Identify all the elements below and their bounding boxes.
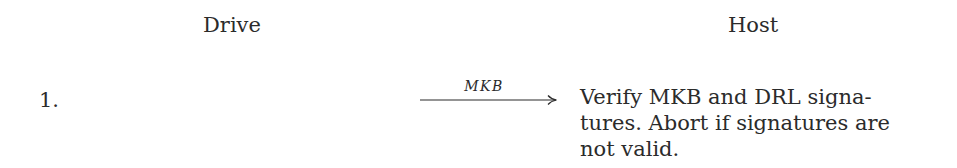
message-label: MKB [420,78,548,94]
message-arrow-group: MKB [420,78,558,108]
drive-column-header: Drive [203,12,261,38]
right-arrow-icon [420,94,558,106]
host-column-header: Host [728,12,778,38]
host-action-line: tures. Abort if signatures are [580,110,920,136]
step-number: 1. [39,87,59,113]
host-action-line: Verify MKB and DRL signa- [580,84,920,110]
host-action-text: Verify MKB and DRL signa- tures. Abort i… [580,84,920,162]
host-action-line: not valid. [580,136,920,162]
